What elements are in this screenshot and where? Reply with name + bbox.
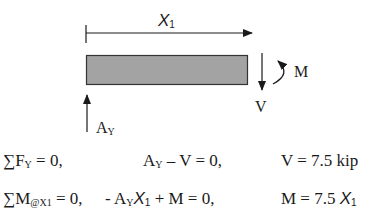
dimension-label-sub: 1	[169, 19, 175, 30]
condition-rest: = 0,	[32, 151, 63, 170]
equation-1-result: V = 7.5 kip	[281, 152, 358, 169]
equation-1-condition: ∑FY = 0,	[3, 152, 63, 169]
equation-2-result: M = 7.5 X1	[281, 190, 357, 207]
equation-2-expression: - AYX1 + M = 0,	[105, 190, 214, 207]
condition-main: M	[15, 189, 30, 208]
dimension-label-main: X	[158, 11, 169, 30]
expression-rest: – V = 0,	[163, 151, 223, 170]
expression-a-sub: Y	[126, 197, 133, 208]
result-x: X	[340, 189, 351, 208]
moment-label: M	[294, 64, 308, 80]
expression-a-sub: Y	[155, 159, 162, 170]
reaction-label: AY	[96, 120, 115, 136]
expression-a: A	[143, 151, 155, 170]
sigma-symbol: ∑	[3, 189, 15, 208]
equation-1-expression: AY – V = 0,	[143, 152, 222, 169]
shear-label: V	[255, 99, 267, 115]
free-body-diagram	[0, 0, 379, 217]
condition-rest: = 0,	[52, 189, 83, 208]
expression-prefix: - A	[105, 189, 126, 208]
reaction-label-main: A	[96, 119, 108, 136]
equation-2-condition: ∑M@X1 = 0,	[3, 190, 83, 207]
condition-sub: @X1	[30, 197, 51, 208]
condition-sub: Y	[25, 159, 32, 170]
result-x-sub: 1	[351, 197, 357, 208]
dimension-label: X1	[158, 12, 175, 29]
sigma-symbol: ∑	[3, 151, 15, 170]
moment-arrow-icon	[273, 61, 284, 84]
expression-x-sub: 1	[145, 197, 151, 208]
beam-segment	[87, 56, 248, 85]
expression-x: X	[133, 189, 144, 208]
result-prefix: M = 7.5	[281, 189, 340, 208]
expression-rest: + M = 0,	[150, 189, 214, 208]
reaction-label-sub: Y	[108, 126, 115, 137]
condition-main: F	[15, 151, 24, 170]
